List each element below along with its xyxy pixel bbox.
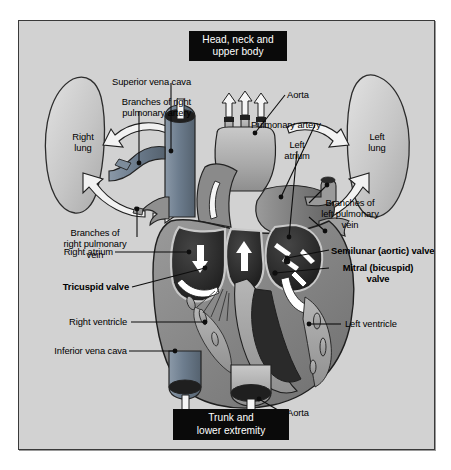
pulmonary-artery-trunk — [197, 164, 237, 227]
illustration-panel: Right lung Left lung Superior vena cava … — [18, 20, 435, 450]
label-pulmonary-artery: Pulmonary artery — [251, 119, 321, 130]
left-lung-label: Left lung — [349, 131, 405, 153]
label-inferior-vena-cava: Inferior vena cava — [27, 345, 127, 356]
label-right-ventricle: Right ventricle — [35, 316, 127, 327]
label-tricuspid-valve: Tricuspid valve — [29, 281, 129, 292]
label-mitral-bicuspid-valve: Mitral (bicuspid) valve — [331, 262, 425, 284]
label-aorta-bottom: Aorta — [287, 407, 309, 418]
label-left-atrium: Left atrium — [271, 139, 323, 161]
callout-trunk-lower-extremity: Trunk and lower extremity — [173, 409, 289, 440]
diagram-page: Right lung Left lung Superior vena cava … — [0, 0, 451, 470]
label-aorta-top: Aorta — [287, 89, 309, 100]
callout-head-neck-upper-body: Head, neck and upper body — [189, 31, 287, 61]
left-atrium-chamber — [266, 225, 323, 291]
label-semilunar-aortic-valves: Semilunar (aortic) valves — [331, 245, 435, 256]
right-lung-label: Right lung — [55, 131, 111, 153]
label-right-atrium: Right atrium — [35, 246, 113, 257]
label-branches-right-pulmonary-artery: Branches of right pulmonary artery — [43, 96, 191, 118]
label-superior-vena-cava: Superior vena cava — [51, 76, 191, 87]
label-left-ventricle: Left ventricle — [345, 318, 397, 329]
right-pulmonary-vein-branches — [133, 197, 169, 225]
label-branches-left-pulmonary-vein: Branches of left pulmonary vein — [307, 197, 393, 231]
